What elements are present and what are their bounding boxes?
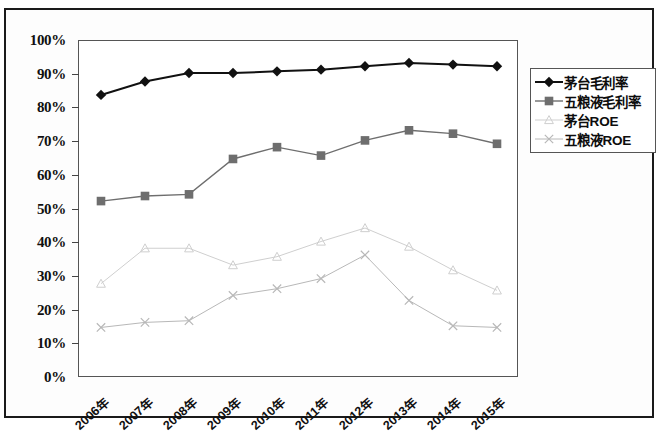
series-marker <box>405 296 413 304</box>
legend-marker-icon <box>534 94 564 108</box>
series-marker <box>273 143 282 152</box>
series-line <box>101 130 497 201</box>
series-marker <box>404 58 414 68</box>
chart-legend: 茅台毛利率五粮液毛利率茅台ROE五粮液ROE <box>530 68 656 153</box>
y-axis-tick-label: 80% <box>37 99 66 116</box>
y-axis-tick-label: 40% <box>37 234 66 251</box>
series-marker <box>228 68 238 78</box>
x-axis-tick-label: 2011年 <box>290 392 333 433</box>
chart-series <box>96 58 502 100</box>
series-line <box>101 228 497 290</box>
legend-item-label: 茅台ROE <box>564 110 618 130</box>
series-marker <box>361 251 369 259</box>
x-axis-tick-label: 2013年 <box>378 392 421 433</box>
legend-item[interactable]: 茅台ROE <box>533 110 653 129</box>
series-marker <box>140 76 150 86</box>
legend-marker-icon <box>534 75 564 89</box>
chart-frame: 0%10%20%30%40%50%60%70%80%90%100% 2006年2… <box>4 8 654 418</box>
y-axis-tick-label: 90% <box>37 65 66 82</box>
y-axis-tick-mark <box>72 343 79 344</box>
series-marker <box>492 61 502 71</box>
legend-item[interactable]: 茅台毛利率 <box>533 72 653 91</box>
series-marker <box>360 61 370 71</box>
legend-item-label: 茅台毛利率 <box>564 72 628 92</box>
series-marker <box>141 192 150 201</box>
legend-item[interactable]: 五粮液ROE <box>533 129 653 148</box>
x-axis-tick-label: 2006年 <box>70 392 113 433</box>
y-axis-tick-label: 30% <box>37 267 66 284</box>
y-axis: 0%10%20%30%40%50%60%70%80%90%100% <box>14 40 72 377</box>
y-axis-tick-mark <box>72 175 79 176</box>
y-axis-tick-mark <box>72 107 79 108</box>
y-axis-tick-label: 20% <box>37 301 66 318</box>
series-marker <box>229 155 238 164</box>
legend-item[interactable]: 五粮液毛利率 <box>533 91 653 110</box>
y-axis-tick-mark <box>72 74 79 75</box>
y-axis-tick-mark <box>72 276 79 277</box>
series-line <box>101 63 497 95</box>
x-axis-tick-label: 2007年 <box>114 392 157 433</box>
y-axis-tick-label: 60% <box>37 166 66 183</box>
series-marker <box>405 126 414 135</box>
y-axis-tick-mark <box>72 242 79 243</box>
series-marker <box>493 139 502 148</box>
x-axis-tick-label: 2008年 <box>158 392 201 433</box>
series-marker <box>96 90 106 100</box>
plot-area <box>78 40 518 377</box>
series-marker <box>272 66 282 76</box>
y-axis-tick-mark <box>72 141 79 142</box>
y-axis-tick-label: 70% <box>37 133 66 150</box>
y-axis-tick-label: 10% <box>37 335 66 352</box>
series-marker <box>361 136 370 145</box>
legend-item-label: 五粮液ROE <box>564 129 631 149</box>
series-marker <box>317 274 325 282</box>
y-axis-tick-mark <box>72 209 79 210</box>
x-axis: 2006年2007年2008年2009年2010年2011年2012年2013年… <box>78 380 518 435</box>
series-marker <box>448 59 458 69</box>
series-line <box>101 255 497 327</box>
series-marker <box>317 151 326 160</box>
series-marker <box>97 197 106 206</box>
chart-series <box>97 126 502 205</box>
x-axis-tick-label: 2014年 <box>422 392 465 433</box>
legend-marker-icon <box>534 113 564 127</box>
series-marker <box>449 129 458 138</box>
x-axis-tick-label: 2009年 <box>202 392 245 433</box>
series-marker <box>316 64 326 74</box>
y-axis-tick-mark <box>72 310 79 311</box>
y-axis-tick-label: 100% <box>30 32 66 49</box>
x-axis-tick-label: 2010年 <box>246 392 289 433</box>
y-axis-tick-label: 50% <box>37 200 66 217</box>
chart-plot-svg <box>79 41 519 378</box>
legend-marker-icon <box>534 132 564 146</box>
series-marker <box>185 190 194 199</box>
x-axis-tick-label: 2012年 <box>334 392 377 433</box>
x-axis-tick-label: 2015年 <box>466 392 509 433</box>
y-axis-tick-label: 0% <box>44 369 66 386</box>
legend-item-label: 五粮液毛利率 <box>564 91 641 111</box>
series-marker <box>184 68 194 78</box>
